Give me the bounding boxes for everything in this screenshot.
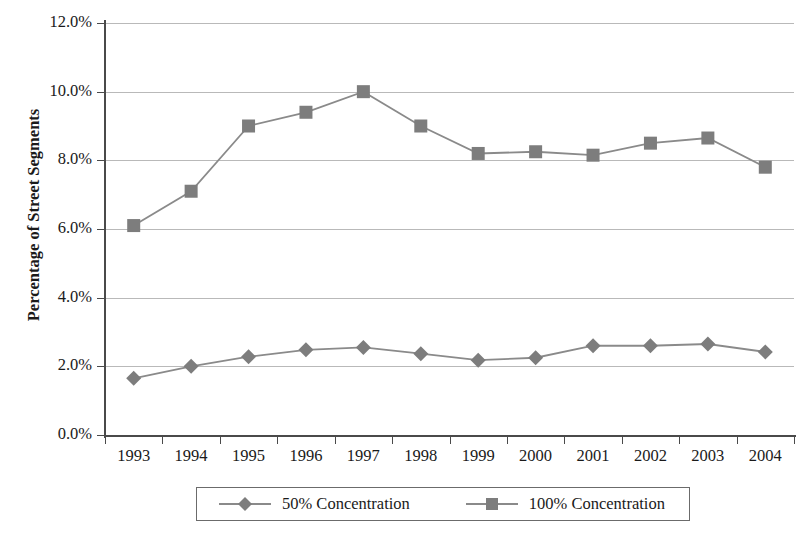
square-marker-icon [587, 149, 600, 162]
square-marker-icon [644, 137, 657, 150]
diamond-marker-icon [700, 337, 715, 352]
square-marker-icon [357, 85, 370, 98]
square-marker-icon [242, 120, 255, 133]
diamond-marker-icon [586, 338, 601, 353]
square-marker-icon [414, 120, 427, 133]
x-tick-label: 1999 [450, 447, 507, 464]
legend-label-50-concentration: 50% Concentration [282, 495, 410, 513]
square-marker-icon [127, 219, 140, 232]
x-tick-mark [564, 436, 565, 444]
legend-label-100-concentration: 100% Concentration [529, 495, 665, 513]
series-plot-area [105, 23, 794, 435]
x-tick-mark [622, 436, 623, 444]
diamond-marker-icon [643, 338, 658, 353]
y-tick-label: 2.0% [14, 357, 92, 374]
diamond-marker-icon [356, 340, 371, 355]
y-tick-label: 6.0% [14, 220, 92, 237]
x-tick-label: 1996 [277, 447, 334, 464]
x-tick-mark [220, 436, 221, 444]
x-tick-mark [277, 436, 278, 444]
diamond-marker-icon [471, 353, 486, 368]
square-marker-icon [472, 147, 485, 160]
x-tick-mark [105, 436, 106, 444]
diamond-marker-icon [758, 344, 773, 359]
series-2 [127, 85, 772, 232]
x-tick-label: 2003 [679, 447, 736, 464]
x-tick-mark [679, 436, 680, 444]
legend: 50% Concentration 100% Concentration [196, 487, 690, 521]
x-tick-label: 1997 [335, 447, 392, 464]
diamond-marker-icon [298, 342, 313, 357]
x-tick-label: 2000 [507, 447, 564, 464]
square-marker-icon [529, 145, 542, 158]
x-tick-mark [335, 436, 336, 444]
diamond-marker-icon [184, 359, 199, 374]
diamond-marker-icon [126, 371, 141, 386]
square-marker-icon [185, 185, 198, 198]
y-tick-label: 4.0% [14, 289, 92, 306]
diamond-marker-icon [219, 495, 271, 513]
x-tick-mark [162, 436, 163, 444]
x-tick-mark [450, 436, 451, 444]
diamond-marker-icon [528, 350, 543, 365]
y-tick-label: 8.0% [14, 151, 92, 168]
x-tick-mark [392, 436, 393, 444]
x-tick-mark [507, 436, 508, 444]
x-tick-label: 1994 [162, 447, 219, 464]
series-line [134, 344, 766, 378]
x-tick-mark [737, 436, 738, 444]
diamond-marker-icon [413, 346, 428, 361]
x-tick-label: 2001 [564, 447, 621, 464]
square-marker-icon [299, 106, 312, 119]
diamond-marker-icon [241, 349, 256, 364]
square-marker-icon [759, 161, 772, 174]
legend-item-50-concentration[interactable]: 50% Concentration [219, 495, 410, 513]
y-axis-title: Percentage of Street Segments [24, 15, 44, 415]
x-tick-label: 1998 [392, 447, 449, 464]
y-tick-label: 12.0% [14, 14, 92, 31]
x-tick-mark [794, 436, 795, 444]
y-tick-label: 10.0% [14, 83, 92, 100]
y-tick-label: 0.0% [14, 426, 92, 443]
x-tick-label: 1993 [105, 447, 162, 464]
line-chart: Percentage of Street Segments 0.0%2.0%4.… [0, 0, 800, 535]
series-1 [126, 337, 773, 386]
legend-item-100-concentration[interactable]: 100% Concentration [466, 495, 665, 513]
x-tick-label: 2002 [622, 447, 679, 464]
x-tick-label: 1995 [220, 447, 277, 464]
series-line [134, 92, 766, 226]
square-marker-icon [701, 132, 714, 145]
x-tick-label: 2004 [737, 447, 794, 464]
square-marker-icon [466, 495, 518, 513]
